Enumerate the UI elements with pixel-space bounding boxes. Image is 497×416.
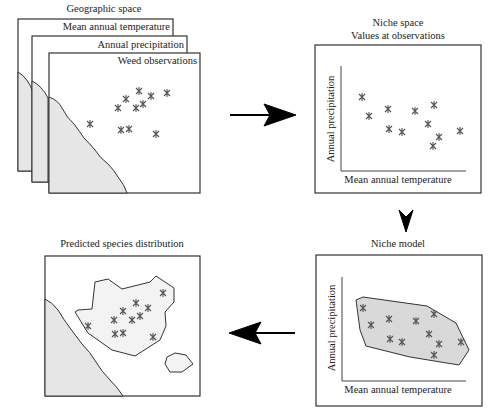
layer-weed-observations: Weed observations [49, 53, 200, 193]
niche-model-xlabel: Mean annual temperature [344, 384, 452, 395]
workflow-diagram: Geographic space Mean annual temperature… [0, 0, 497, 416]
niche-space-ylabel: Annual precipitation [325, 75, 336, 162]
niche-model-ylabel: Annual precipitation [326, 284, 337, 371]
predicted-distribution-panel [45, 256, 200, 396]
geographic-space-title: Geographic space [67, 3, 142, 14]
layer-label-weed-observations: Weed observations [118, 55, 197, 66]
niche-space-title: Niche space [372, 17, 423, 28]
arrow-right-to-niche-space [230, 104, 296, 126]
layer-label-temperature: Mean annual temperature [63, 21, 171, 32]
niche-space-xlabel: Mean annual temperature [344, 174, 452, 185]
layer-label-precipitation: Annual precipitation [97, 39, 184, 50]
niche-space-subtitle: Values at observations [351, 30, 445, 41]
niche-model-panel: Mean annual temperature Annual precipita… [316, 255, 482, 406]
niche-model-title: Niche model [371, 238, 425, 249]
arrow-down-to-niche-model [399, 210, 413, 232]
arrow-left-to-prediction [229, 322, 295, 344]
predicted-distribution-title: Predicted species distribution [60, 238, 184, 249]
niche-space-panel: Mean annual temperature Annual precipita… [315, 45, 481, 193]
